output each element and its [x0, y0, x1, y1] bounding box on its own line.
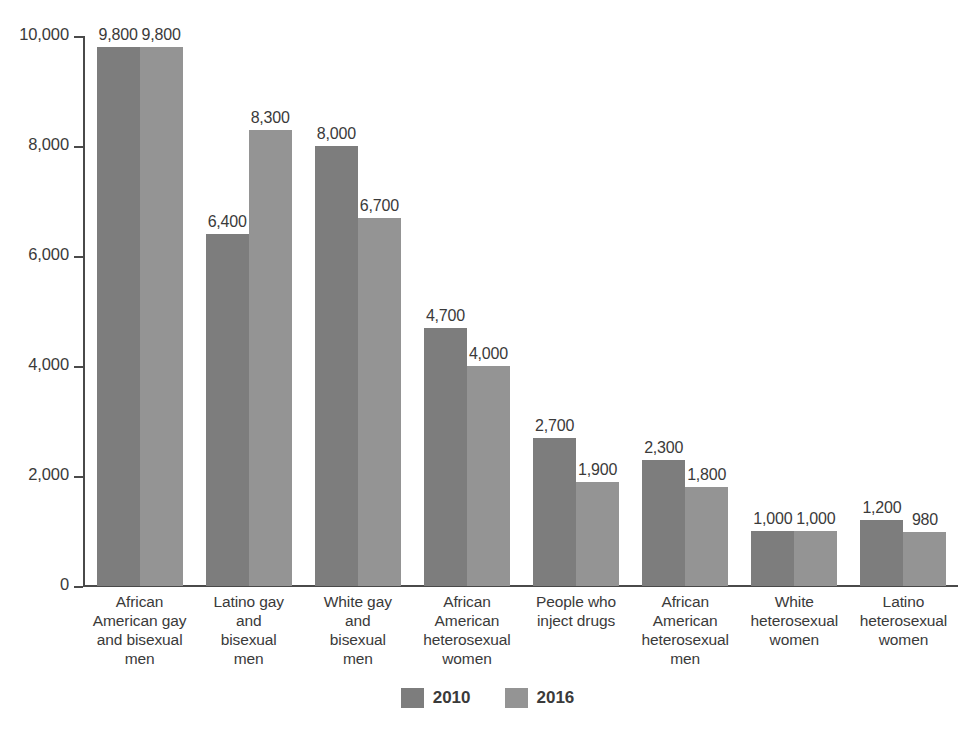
category-label-line: People who — [516, 592, 637, 611]
bar-2010[interactable] — [97, 47, 140, 586]
category-label-line: heterosexual — [734, 611, 855, 630]
y-axis-tick-mark — [74, 36, 83, 38]
category-label-line: heterosexual — [843, 611, 964, 630]
y-axis-tick-label: 0 — [60, 575, 69, 594]
bar-wrapper: 4,700 — [424, 36, 467, 586]
x-axis-category-label: AfricanAmericanheterosexualwomen — [406, 592, 527, 668]
bar-2016[interactable] — [249, 130, 292, 587]
y-axis-tick-label: 2,000 — [28, 465, 69, 484]
bar-value-label: 1,200 — [862, 499, 901, 517]
bar-group: 8,0006,700 — [303, 36, 412, 586]
category-label-line: and — [188, 611, 309, 630]
bar-value-label: 1,800 — [687, 466, 726, 484]
y-axis-tick-label: 8,000 — [28, 135, 69, 154]
category-label-line: men — [297, 649, 418, 668]
bar-value-label: 980 — [912, 511, 938, 529]
y-axis-tick-mark — [74, 256, 83, 258]
bar-2016[interactable] — [576, 482, 619, 587]
category-label-line: African — [79, 592, 200, 611]
bar-wrapper: 6,400 — [206, 36, 249, 586]
category-label-line: White gay — [297, 592, 418, 611]
bar-wrapper: 1,000 — [751, 36, 794, 586]
bar-value-label: 9,800 — [99, 26, 138, 44]
category-label-line: women — [843, 630, 964, 649]
bar-wrapper: 9,800 — [97, 36, 140, 586]
bar-2010[interactable] — [751, 531, 794, 586]
bar-value-label: 6,400 — [208, 213, 247, 231]
y-axis-tick-label: 4,000 — [28, 355, 69, 374]
bar-value-label: 2,700 — [535, 417, 574, 435]
bar-value-label: 8,300 — [251, 109, 290, 127]
category-label-line: Latino gay — [188, 592, 309, 611]
bar-wrapper: 1,200 — [860, 36, 903, 586]
bar-2016[interactable] — [794, 531, 837, 586]
bar-group: 1,0001,000 — [740, 36, 849, 586]
bar-value-label: 1,000 — [753, 510, 792, 528]
bar-wrapper: 1,800 — [685, 36, 728, 586]
bar-wrapper: 8,000 — [315, 36, 358, 586]
bar-wrapper: 2,700 — [533, 36, 576, 586]
category-label-line: bisexual — [297, 630, 418, 649]
bar-2010[interactable] — [315, 146, 358, 586]
bar-2010[interactable] — [642, 460, 685, 587]
bar-wrapper: 6,700 — [358, 36, 401, 586]
bar-wrapper: 1,900 — [576, 36, 619, 586]
bar-wrapper: 1,000 — [794, 36, 837, 586]
x-axis-category-label: Latino gayandbisexualmen — [188, 592, 309, 668]
bar-value-label: 4,700 — [426, 307, 465, 325]
category-label-line: men — [79, 649, 200, 668]
bar-value-label: 1,900 — [578, 461, 617, 479]
category-label-line: inject drugs — [516, 611, 637, 630]
bar-value-label: 2,300 — [644, 439, 683, 457]
y-axis-tick-mark — [74, 146, 83, 148]
bar-group: 1,200980 — [849, 36, 958, 586]
bar-wrapper: 2,300 — [642, 36, 685, 586]
bar-wrapper: 4,000 — [467, 36, 510, 586]
x-axis-category-label: White gayandbisexualmen — [297, 592, 418, 668]
bar-2016[interactable] — [358, 218, 401, 587]
y-axis-tick-mark — [74, 586, 83, 588]
bar-wrapper: 9,800 — [140, 36, 183, 586]
bar-value-label: 9,800 — [142, 26, 181, 44]
category-label-line: American gay — [79, 611, 200, 630]
category-label-line: bisexual — [188, 630, 309, 649]
legend-swatch-2016 — [505, 688, 528, 708]
y-axis-tick-mark — [74, 476, 83, 478]
bar-value-label: 1,000 — [796, 510, 835, 528]
category-label-line: African — [406, 592, 527, 611]
bar-value-label: 6,700 — [360, 197, 399, 215]
y-axis-tick-mark — [74, 366, 83, 368]
bar-group: 4,7004,000 — [412, 36, 521, 586]
legend-item-2010[interactable]: 2010 — [401, 688, 471, 708]
category-label-line: and — [297, 611, 418, 630]
category-label-line: heterosexual — [406, 630, 527, 649]
legend-swatch-2010 — [401, 688, 424, 708]
category-label-line: women — [406, 649, 527, 668]
plot-area: 9,8009,8006,4008,3008,0006,7004,7004,000… — [85, 36, 958, 586]
y-axis-tick-label: 6,000 — [28, 245, 69, 264]
bar-2016[interactable] — [903, 532, 946, 586]
bar-value-label: 8,000 — [317, 125, 356, 143]
bar-2016[interactable] — [685, 487, 728, 586]
category-label-line: American — [625, 611, 746, 630]
x-axis-category-label: Whiteheterosexualwomen — [734, 592, 855, 649]
legend-item-2016[interactable]: 2016 — [505, 688, 575, 708]
x-axis-category-labels: AfricanAmerican gayand bisexualmenLatino… — [85, 592, 958, 687]
category-label-line: heterosexual — [625, 630, 746, 649]
bar-2010[interactable] — [424, 328, 467, 587]
legend-label-2010: 2010 — [433, 688, 471, 708]
bar-value-label: 4,000 — [469, 345, 508, 363]
bar-2010[interactable] — [533, 438, 576, 587]
bar-2016[interactable] — [467, 366, 510, 586]
category-label-line: White — [734, 592, 855, 611]
bar-2016[interactable] — [140, 47, 183, 586]
category-label-line: African — [625, 592, 746, 611]
legend-label-2016: 2016 — [537, 688, 575, 708]
bar-chart: 02,0004,0006,0008,00010,000 9,8009,8006,… — [0, 0, 975, 732]
bar-2010[interactable] — [860, 520, 903, 586]
category-label-line: American — [406, 611, 527, 630]
category-label-line: men — [188, 649, 309, 668]
bar-wrapper: 8,300 — [249, 36, 292, 586]
bar-group: 2,3001,800 — [631, 36, 740, 586]
bar-2010[interactable] — [206, 234, 249, 586]
